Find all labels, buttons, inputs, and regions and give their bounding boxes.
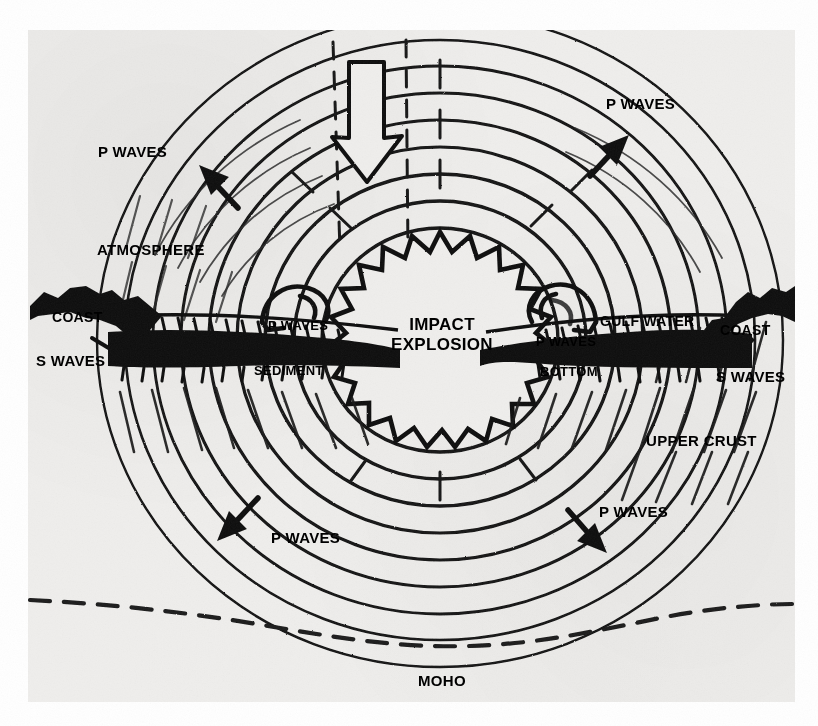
label-impact-explosion-line1: IMPACT bbox=[387, 315, 497, 335]
label-p-waves-upper-right: P WAVES bbox=[606, 95, 675, 113]
impact-arrow bbox=[332, 62, 402, 182]
label-sediment: SEDIMENT bbox=[254, 363, 324, 378]
label-moho: MOHO bbox=[418, 672, 466, 690]
label-s-waves-left: S WAVES bbox=[36, 352, 105, 370]
label-impact-explosion: IMPACT EXPLOSION bbox=[387, 315, 497, 355]
arrow-p-upper-right bbox=[590, 140, 624, 176]
label-bottom: BOTTOM bbox=[540, 364, 598, 379]
label-p-waves-sea-right: P WAVES bbox=[536, 334, 596, 349]
label-p-waves-lower-right: P WAVES bbox=[599, 503, 668, 521]
label-coast-right: COAST bbox=[720, 322, 771, 339]
label-coast-left: COAST bbox=[52, 309, 103, 326]
label-impact-explosion-line2: EXPLOSION bbox=[387, 335, 497, 355]
label-atmosphere: ATMOSPHERE bbox=[97, 241, 205, 259]
label-gulf-water: GULF WATER bbox=[600, 313, 695, 330]
label-p-waves-sea-left: P WAVES bbox=[268, 318, 328, 333]
label-p-waves-lower-left: P WAVES bbox=[271, 529, 340, 547]
label-upper-crust: UPPER CRUST bbox=[646, 432, 757, 450]
label-s-waves-right: S WAVES bbox=[716, 368, 785, 386]
diagram-artwork bbox=[0, 0, 818, 726]
arrow-p-lower-left bbox=[222, 498, 258, 536]
figure-canvas: P WAVES P WAVES ATMOSPHERE COAST S WAVES… bbox=[0, 0, 818, 726]
label-p-waves-upper-left: P WAVES bbox=[98, 143, 167, 161]
arrow-p-lower-right bbox=[568, 510, 602, 548]
arrow-p-upper-left bbox=[204, 170, 238, 208]
